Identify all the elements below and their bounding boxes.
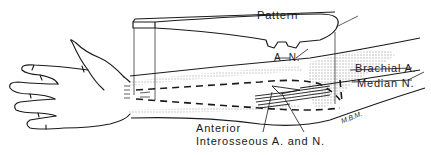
interosseous-label: Interosseous A. and N.: [196, 135, 325, 147]
diagram-canvas: Pattern A. N. Brachial A. Median N. Ante…: [0, 0, 431, 155]
anterior-label: Anterior: [196, 122, 241, 134]
brachial-artery-label: Brachial A.: [355, 62, 416, 74]
pattern-label: Pattern: [257, 9, 298, 21]
median-nerve-label: Median N.: [357, 77, 414, 89]
pattern-template: [133, 12, 338, 48]
wrist-marks: [124, 86, 150, 98]
hand-outline: [10, 40, 130, 129]
pattern-notch-label: A. N.: [274, 52, 300, 64]
